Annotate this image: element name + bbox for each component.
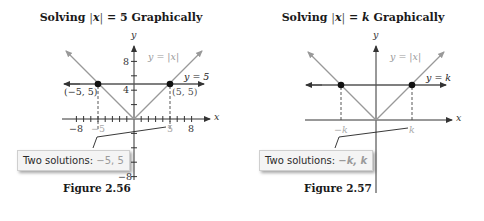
figure-caption: Figure 2.56 <box>63 182 131 194</box>
x-axis-label: x <box>214 111 219 122</box>
y-axis-label: y <box>131 29 136 40</box>
intersection-point-left <box>338 82 345 89</box>
y-tick-8: 8 <box>123 56 129 67</box>
x-tick-8: 8 <box>188 123 194 134</box>
solutions-callout: Two solutions: −5, 5 <box>17 150 130 171</box>
x-tick-k: k <box>409 124 415 135</box>
point-right-label: (5, 5) <box>172 86 198 97</box>
y-tick-4: 4 <box>123 84 129 95</box>
solutions-values: −5, 5 <box>96 155 123 166</box>
x-tick-neg-k: −k <box>334 124 348 135</box>
point-left-label: (−5, 5) <box>64 86 98 97</box>
intersection-point-right <box>409 82 416 89</box>
solutions-values: −k, k <box>338 155 367 166</box>
solutions-callout: Two solutions: −k, k <box>259 150 373 171</box>
y-tick-neg8: −8 <box>118 171 132 182</box>
figure-2-56: Solving |x| = 5 Graphically <box>0 0 242 221</box>
line-label: y = k <box>426 72 451 83</box>
y-axis-label: y <box>373 29 378 40</box>
line-label: y = 5 <box>184 71 209 82</box>
x-tick-5: 5 <box>167 123 173 134</box>
curve-label: y = |x| <box>390 51 421 62</box>
figure-2-57: Solving |x| = k Graphically y x y = |x| … <box>242 0 484 221</box>
figure-caption: Figure 2.57 <box>304 182 372 194</box>
curve-label: y = |x| <box>148 51 179 62</box>
x-axis-label: x <box>456 112 461 123</box>
x-tick-neg5: −5 <box>91 123 105 134</box>
x-tick-neg8: −8 <box>69 123 83 134</box>
